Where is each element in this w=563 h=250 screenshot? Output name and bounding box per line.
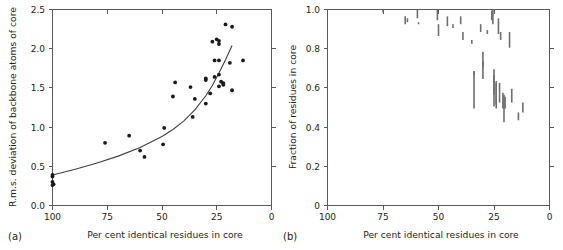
scatter-point <box>208 91 212 95</box>
scatter-point <box>162 126 166 130</box>
scatter-point <box>143 155 147 159</box>
scatter-point <box>241 59 245 63</box>
panel-a-ytick-5: 2.5 <box>31 5 45 15</box>
scatter-point <box>193 97 197 101</box>
scatter-point <box>213 59 217 63</box>
panel-a-scatter-points <box>51 23 245 188</box>
scatter-point <box>230 88 234 92</box>
scatter-point <box>213 75 217 79</box>
panel-a-ytick-2: 1.0 <box>31 123 46 133</box>
scatter-point <box>103 141 107 145</box>
panel-b-frame <box>328 10 550 206</box>
panel-b-ytick-5: 1.0 <box>306 5 321 15</box>
panel-b-xtick-3: 25 <box>488 212 499 222</box>
figure-container: 0.0 0.5 1.0 1.5 2.0 2.5 100 75 50 <box>0 0 563 250</box>
panel-a-xtick-1: 75 <box>102 212 113 222</box>
panel-b-label: (b) <box>283 231 297 242</box>
scatter-point <box>230 25 234 29</box>
panel-b-ytick-0: 0 <box>314 201 320 211</box>
panel-b-x-ticks <box>328 206 550 210</box>
panel-b-y-axis-title: Fraction of residues in core <box>287 45 298 169</box>
scatter-point <box>51 175 55 179</box>
panel-a-y-axis-title: R.m.s. deviation of backbone atoms of co… <box>7 7 18 207</box>
panel-a-xtick-3: 25 <box>211 212 222 222</box>
scatter-point <box>189 85 193 89</box>
panel-a-ytick-0: 0.0 <box>31 201 46 211</box>
panel-b-xtick-2: 50 <box>433 212 445 222</box>
panel-a-x-axis-title: Per cent identical residues in core <box>87 229 243 240</box>
scatter-point <box>217 73 221 77</box>
panel-a-label: (a) <box>8 231 22 242</box>
scatter-point <box>224 23 228 27</box>
panel-a-y-ticks-right <box>272 49 276 167</box>
panel-a-xtick-2: 50 <box>156 212 168 222</box>
scatter-point <box>210 40 214 44</box>
panel-a-ytick-1: 0.5 <box>31 162 45 172</box>
scatter-point <box>204 102 208 106</box>
panel-b: 0 0.2 0.4 0.6 0.8 1.0 100 75 50 25 <box>283 5 554 242</box>
panel-b-xtick-1: 75 <box>377 212 388 222</box>
panel-b-ytick-1: 0.2 <box>306 162 320 172</box>
scatter-point <box>52 182 56 186</box>
panel-b-y-ticks <box>324 10 328 206</box>
panel-a-x-ticks <box>53 206 272 210</box>
panel-b-range-bars <box>383 10 523 123</box>
panel-a-frame <box>53 10 272 206</box>
panel-b-y-ticks-right <box>550 49 554 167</box>
panel-b-axes <box>328 10 550 206</box>
figure-svg: 0.0 0.5 1.0 1.5 2.0 2.5 100 75 50 <box>0 0 563 250</box>
panel-b-xtick-0: 100 <box>319 212 336 222</box>
scatter-point <box>204 78 208 82</box>
panel-a-fit-curve <box>53 46 233 175</box>
panel-a: 0.0 0.5 1.0 1.5 2.0 2.5 100 75 50 <box>7 5 276 242</box>
panel-b-ytick-4: 0.8 <box>306 44 321 54</box>
panel-a-ytick-4: 2.0 <box>31 44 46 54</box>
fit-curve <box>53 46 233 175</box>
scatter-point <box>191 115 195 119</box>
panel-b-ytick-2: 0.4 <box>306 123 321 133</box>
panel-a-axes <box>53 10 272 206</box>
panel-a-x-ticks-top <box>107 10 217 14</box>
scatter-point <box>127 134 131 138</box>
scatter-point <box>138 149 142 153</box>
scatter-point <box>173 81 177 85</box>
panel-a-ytick-3: 1.5 <box>31 83 45 93</box>
scatter-point <box>217 59 221 63</box>
panel-b-x-ticks-top <box>383 10 494 14</box>
scatter-point <box>221 83 225 87</box>
panel-a-xtick-0: 100 <box>44 212 61 222</box>
scatter-point <box>217 42 221 46</box>
scatter-point <box>217 84 221 88</box>
panel-b-x-axis-title: Per cent identical residues in core <box>363 229 519 240</box>
panel-b-xtick-4: 0 <box>547 212 553 222</box>
panel-b-ytick-3: 0.6 <box>306 83 321 93</box>
scatter-point <box>171 95 175 99</box>
scatter-point <box>161 142 165 146</box>
panel-a-xtick-4: 0 <box>269 212 275 222</box>
scatter-point <box>228 61 232 65</box>
